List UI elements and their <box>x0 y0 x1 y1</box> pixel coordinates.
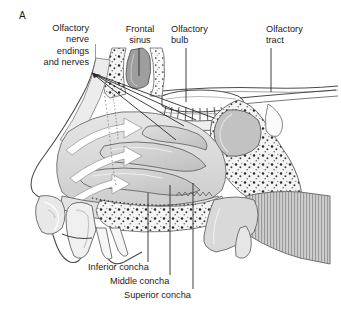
frontal-sinus-cavity <box>126 48 151 89</box>
nasal-vestibule <box>36 196 65 235</box>
label-olfactory-tract: Olfactory tract <box>266 24 303 47</box>
label-superior-concha: Superior concha <box>124 290 191 301</box>
label-inferior-concha: Inferior concha <box>88 262 149 273</box>
panel-letter: A <box>19 10 26 21</box>
label-frontal-sinus: Frontal sinus <box>118 24 162 47</box>
label-olfactory-nerve-endings: Olfactory nerve endings and nerves <box>0 23 89 69</box>
label-middle-concha: Middle concha <box>110 276 169 287</box>
label-olfactory-bulb: Olfactory bulb <box>171 24 208 47</box>
pharynx-striated-muscle <box>244 192 330 265</box>
